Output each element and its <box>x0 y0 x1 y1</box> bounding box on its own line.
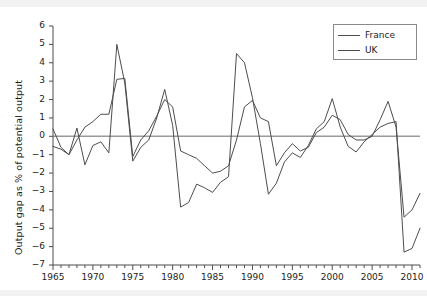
y-tick-label: −1 <box>23 149 45 159</box>
y-tick-label: −5 <box>23 222 45 232</box>
series-line-uk <box>53 44 420 252</box>
legend-line-swatch-uk <box>338 50 360 51</box>
y-tick-label: −3 <box>23 185 45 195</box>
x-tick-label: 2005 <box>352 272 392 282</box>
legend-line-swatch-france <box>338 35 360 36</box>
x-tick-label: 2010 <box>392 272 427 282</box>
x-tick-label: 1990 <box>232 272 272 282</box>
legend-label-france: France <box>365 30 395 40</box>
x-tick-label: 1975 <box>113 272 153 282</box>
y-tick-label: −4 <box>23 204 45 214</box>
y-tick-label: 3 <box>23 75 45 85</box>
y-tick-label: −6 <box>23 241 45 251</box>
y-tick-label: 4 <box>23 57 45 67</box>
chart-legend[interactable]: France UK <box>333 24 417 60</box>
x-tick-label: 1985 <box>193 272 233 282</box>
y-tick-label: 2 <box>23 94 45 104</box>
y-tick-label: −2 <box>23 167 45 177</box>
data-series-lines <box>53 44 420 252</box>
x-tick-label: 1970 <box>73 272 113 282</box>
x-tick-label: 1995 <box>272 272 312 282</box>
chart-figure: Output gap as % of potential output 6543… <box>0 0 427 296</box>
y-tick-label: 5 <box>23 38 45 48</box>
y-tick-label: 6 <box>23 20 45 30</box>
legend-item-uk[interactable]: UK <box>338 43 378 57</box>
y-tick-label: 0 <box>23 130 45 140</box>
x-tick-label: 1980 <box>153 272 193 282</box>
y-tick-label: −7 <box>23 259 45 269</box>
x-tick-label: 1965 <box>33 272 73 282</box>
axis-lines <box>53 26 420 265</box>
series-line-france <box>53 78 420 217</box>
x-tick-label: 2000 <box>312 272 352 282</box>
y-tick-label: 1 <box>23 112 45 122</box>
legend-label-uk: UK <box>365 45 378 55</box>
legend-item-france[interactable]: France <box>338 28 395 42</box>
